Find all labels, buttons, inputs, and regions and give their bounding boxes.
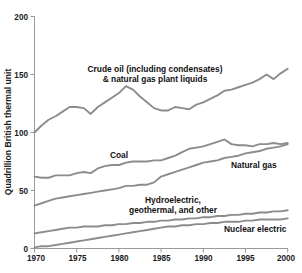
y-tick-label-150: 150 [14, 71, 28, 80]
x-tick-label-1980: 1980 [110, 254, 129, 263]
series-label-crude-oil-line2: & natural gas plant liquids [103, 74, 208, 84]
line-chart: 200 150 100 50 0 1970 1975 1980 1985 199… [0, 0, 302, 273]
x-tick-label-1995: 1995 [236, 254, 255, 263]
series-label-natural-gas: Natural gas [231, 160, 277, 170]
y-tick-label-200: 200 [14, 13, 28, 22]
x-tick-label-2000: 2000 [277, 254, 296, 263]
series-label-coal: Coal [110, 150, 128, 160]
y-tick-label-100: 100 [14, 129, 28, 138]
chart-container: 200 150 100 50 0 1970 1975 1980 1985 199… [0, 0, 302, 273]
series-lines-group [35, 69, 288, 248]
series-label-nuclear-electric: Nuclear electric [224, 224, 287, 234]
series-label-hydro-line1: Hydroelectric, [145, 195, 201, 205]
series-label-hydro-line2: geothermal, and other [129, 205, 218, 215]
series-label-crude-oil-line1: Crude oil (including condensates) [88, 64, 223, 74]
series-line-coal [35, 139, 288, 177]
y-tick-label-0: 0 [23, 245, 28, 254]
x-tick-label-1970: 1970 [27, 254, 46, 263]
x-tick-label-1985: 1985 [152, 254, 171, 263]
y-tick-label-50: 50 [19, 187, 29, 196]
x-tick-label-1990: 1990 [194, 254, 213, 263]
x-tick-label-1975: 1975 [68, 254, 87, 263]
x-axis-ticks [35, 249, 288, 253]
y-axis-title: Quadrillion British thermal unit [3, 69, 13, 196]
